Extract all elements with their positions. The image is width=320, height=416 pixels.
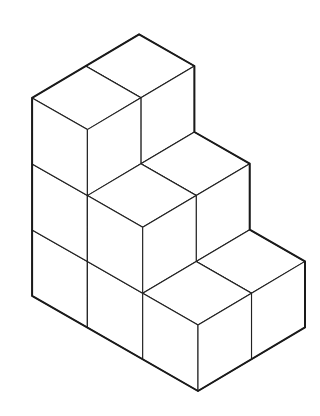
isometric-cube-staircase	[0, 0, 320, 416]
diagram-canvas	[0, 0, 320, 416]
